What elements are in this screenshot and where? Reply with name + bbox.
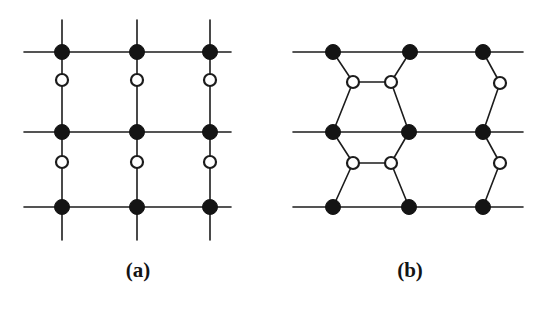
filled-circle-filled-node-r3c3 — [476, 200, 491, 215]
panel-b-filled-nodes — [326, 45, 491, 215]
panel-b-label: (b) — [350, 258, 470, 283]
filled-circle-filled-node-r2c3 — [203, 125, 218, 140]
lattice-figure: (a) (b) — [0, 0, 535, 309]
filled-circle-filled-node-r3c1 — [326, 200, 341, 215]
filled-circle-filled-node-r2c1 — [326, 125, 341, 140]
bond-line-bond-a4 — [333, 82, 353, 132]
filled-circle-filled-node-r3c1 — [55, 200, 70, 215]
open-circle-open-node-u1c1 — [56, 74, 68, 86]
open-circle-open-node-u2c — [494, 157, 506, 169]
filled-circle-filled-node-r1c3 — [203, 45, 218, 60]
filled-circle-filled-node-r1c1 — [55, 45, 70, 60]
open-circle-open-node-u2b — [385, 157, 397, 169]
open-circle-open-node-u1c3 — [204, 74, 216, 86]
filled-circle-filled-node-r1c2 — [130, 45, 145, 60]
filled-circle-filled-node-r2c2 — [130, 125, 145, 140]
filled-circle-filled-node-r1c3 — [476, 45, 491, 60]
filled-circle-filled-node-r2c1 — [55, 125, 70, 140]
panel-a-filled-nodes — [55, 45, 218, 215]
open-circle-open-node-u1c — [494, 77, 506, 89]
open-circle-open-node-u1c2 — [131, 74, 143, 86]
open-circle-open-node-u2c3 — [204, 156, 216, 168]
open-circle-open-node-u2c1 — [56, 156, 68, 168]
open-circle-open-node-u2a — [347, 157, 359, 169]
panel-b — [293, 45, 523, 215]
filled-circle-filled-node-r3c2 — [402, 200, 417, 215]
open-circle-open-node-u2c2 — [131, 156, 143, 168]
filled-circle-filled-node-r2c2 — [402, 125, 417, 140]
filled-circle-filled-node-r1c2 — [403, 45, 418, 60]
open-circle-open-node-u1b — [385, 76, 397, 88]
panel-a — [24, 20, 231, 240]
open-circle-open-node-u1a — [347, 76, 359, 88]
filled-circle-filled-node-r3c2 — [130, 200, 145, 215]
filled-circle-filled-node-r2c3 — [476, 125, 491, 140]
panel-a-open-nodes — [56, 74, 216, 168]
filled-circle-filled-node-r3c3 — [203, 200, 218, 215]
filled-circle-filled-node-r1c1 — [326, 45, 341, 60]
panel-a-label: (a) — [78, 258, 198, 283]
panel-b-open-nodes — [347, 76, 506, 169]
